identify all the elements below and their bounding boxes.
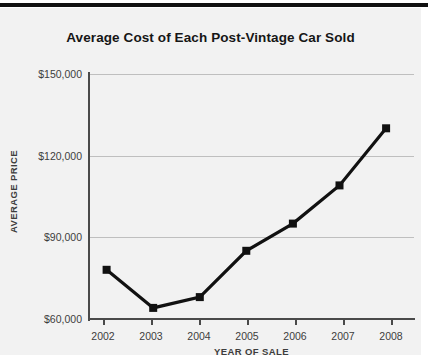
data-point-2003 — [149, 304, 157, 312]
series-markers — [103, 124, 391, 312]
data-point-2006 — [289, 220, 297, 228]
series-line — [107, 128, 387, 308]
data-point-2007 — [336, 181, 344, 189]
data-point-2004 — [196, 293, 204, 301]
data-series-layer — [0, 8, 435, 355]
chart-page: Average Cost of Each Post-Vintage Car So… — [0, 0, 435, 355]
page-top-rule — [0, 3, 428, 7]
chart-figure: Average Cost of Each Post-Vintage Car So… — [0, 8, 421, 355]
data-point-2002 — [103, 266, 111, 274]
data-point-2005 — [242, 247, 250, 255]
data-point-2008 — [382, 124, 390, 132]
